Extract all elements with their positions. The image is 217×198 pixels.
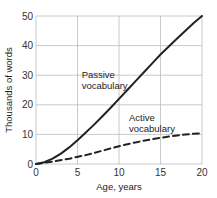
y-tick-label: 20 xyxy=(22,99,34,110)
x-tick-label: 20 xyxy=(196,167,208,178)
x-tick-label: 5 xyxy=(75,167,81,178)
annotation-label: vocabulary xyxy=(82,80,128,91)
y-tick-label: 30 xyxy=(22,70,34,81)
y-tick-label: 50 xyxy=(22,11,34,22)
x-axis-label: Age, years xyxy=(96,181,142,192)
y-tick-label: 10 xyxy=(22,129,34,140)
annotation-label: vocabulary xyxy=(129,123,175,134)
annotation-label: Active xyxy=(129,112,155,123)
x-tick-label: 0 xyxy=(33,167,39,178)
y-tick-label: 0 xyxy=(27,159,33,170)
x-tick-label: 15 xyxy=(155,167,167,178)
y-tick-label: 40 xyxy=(22,40,34,51)
annotation-label: Passive xyxy=(82,69,115,80)
vocabulary-chart: 0510152001020304050 PassivevocabularyAct… xyxy=(0,0,217,198)
x-tick-label: 10 xyxy=(113,167,125,178)
y-axis-label: Thousands of words xyxy=(3,47,14,133)
